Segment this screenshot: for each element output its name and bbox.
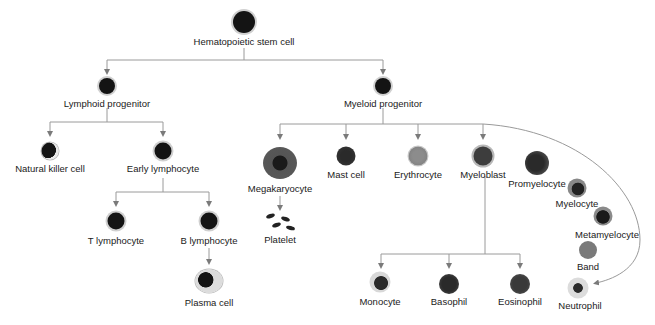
t-lymphocyte-icon — [108, 213, 125, 230]
plasma-cell-label: Plasma cell — [185, 297, 234, 308]
erythrocyte-label: Erythrocyte — [394, 169, 442, 180]
myeloid-progenitor-icon — [375, 78, 391, 94]
myeloid-progenitor-label: Myeloid progenitor — [344, 98, 422, 109]
myeloblast-icon — [474, 147, 493, 166]
lymphoid-progenitor-label: Lymphoid progenitor — [64, 98, 150, 109]
early-lymphocyte-icon — [155, 143, 172, 160]
eosinophil-icon — [510, 274, 530, 294]
megakaryocyte-label: Megakaryocyte — [248, 183, 312, 194]
early-lymphocyte-label: Early lymphocyte — [127, 163, 199, 174]
eosinophil-label: Eosinophil — [498, 296, 542, 307]
band-icon — [579, 241, 597, 259]
plasma-cell-icon — [196, 270, 223, 293]
mast-cell-icon — [337, 147, 356, 166]
myelocyte-icon — [568, 179, 587, 198]
megakaryocyte-icon — [263, 147, 297, 179]
platelet-icon — [266, 214, 296, 232]
band-label: Band — [577, 261, 599, 272]
basophil-icon — [439, 274, 459, 294]
hematopoiesis-diagram: Hematopoietic stem cell Lymphoid progeni… — [0, 0, 655, 325]
monocyte-icon — [370, 272, 391, 293]
lymphoid-progenitor-icon — [99, 78, 115, 94]
erythrocyte-icon — [409, 147, 428, 166]
b-lymphocyte-icon — [201, 213, 218, 230]
neutrophil-icon — [568, 278, 589, 299]
metamyelocyte-label: Metamyelocyte — [575, 229, 639, 240]
promyelocyte-label: Promyelocyte — [508, 178, 566, 189]
basophil-label: Basophil — [431, 296, 467, 307]
platelet-label: Platelet — [264, 234, 296, 245]
monocyte-label: Monocyte — [359, 296, 400, 307]
stem-cell-icon — [233, 11, 255, 33]
neutrophil-label: Neutrophil — [558, 300, 601, 311]
mast-cell-label: Mast cell — [327, 169, 364, 180]
t-lymphocyte-label: T lymphocyte — [88, 235, 144, 246]
natural-killer-cell-label: Natural killer cell — [15, 163, 85, 174]
natural-killer-cell-icon — [42, 143, 59, 160]
myelocyte-label: Myelocyte — [556, 198, 599, 209]
metamyelocyte-icon — [594, 207, 613, 226]
promyelocyte-icon — [525, 151, 549, 175]
stem-cell-label: Hematopoietic stem cell — [194, 36, 295, 47]
myeloblast-label: Myeloblast — [460, 169, 505, 180]
b-lymphocyte-label: B lymphocyte — [180, 235, 237, 246]
connector-lines — [0, 0, 655, 325]
